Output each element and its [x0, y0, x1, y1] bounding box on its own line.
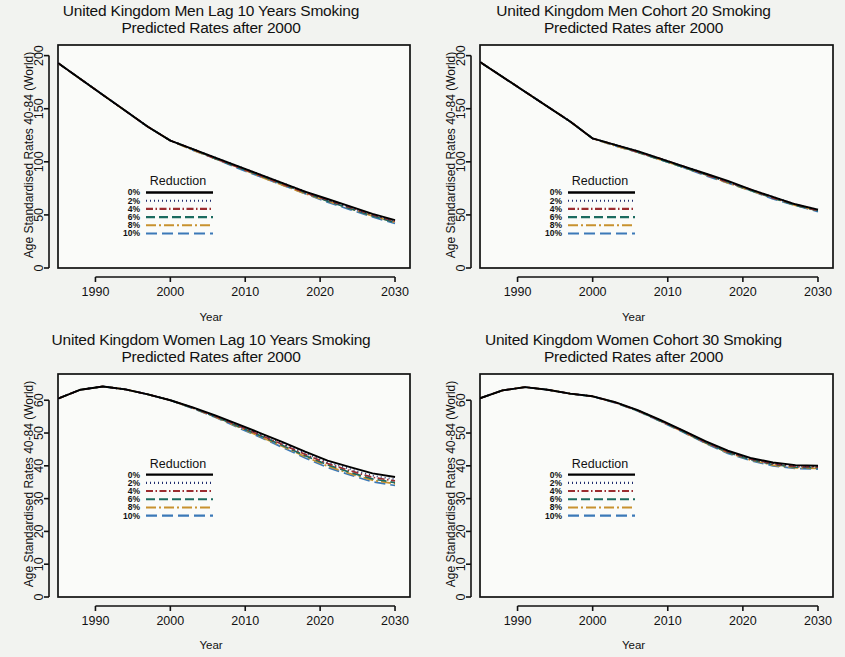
y-tick-label: 50	[32, 426, 46, 440]
y-tick-label: 150	[32, 98, 46, 119]
x-tick-label: 2030	[804, 285, 832, 299]
y-tick-label: 30	[32, 492, 46, 506]
x-tick-label: 2010	[231, 614, 259, 628]
x-tick-label: 2000	[579, 614, 607, 628]
y-tick-label: 10	[454, 557, 468, 571]
x-tick-label: 2000	[156, 285, 184, 299]
y-tick-label: 150	[454, 98, 468, 119]
plot-area-uk-women-cohort30: 010203040506019902000201020202030Reducti…	[422, 329, 845, 657]
legend-title: Reduction	[572, 174, 628, 188]
plot-area-uk-women-lag10: 010203040506019902000201020202030Reducti…	[0, 329, 422, 657]
y-tick-label: 0	[32, 593, 46, 600]
legend-label-10pct: 10%	[545, 511, 562, 521]
x-tick-label: 2020	[729, 285, 757, 299]
plot-area-uk-men-lag10: 05010015020019902000201020202030Reductio…	[0, 0, 422, 329]
x-tick-label: 1990	[82, 614, 110, 628]
legend-label-10pct: 10%	[545, 228, 562, 238]
chart-panel-uk-women-cohort30: United Kingdom Women Cohort 30 Smoking P…	[422, 329, 845, 657]
y-tick-label: 20	[32, 524, 46, 538]
y-tick-label: 60	[454, 393, 468, 407]
x-tick-label: 2010	[654, 285, 682, 299]
x-tick-label: 2020	[729, 614, 757, 628]
plot-background	[58, 374, 410, 597]
y-tick-label: 100	[32, 151, 46, 172]
y-tick-label: 0	[32, 264, 46, 271]
x-tick-label: 2000	[156, 614, 184, 628]
legend-label-10pct: 10%	[123, 511, 140, 521]
y-tick-label: 40	[454, 459, 468, 473]
chart-panel-uk-men-cohort20: United Kingdom Men Cohort 20 Smoking Pre…	[422, 0, 845, 329]
y-tick-label: 0	[454, 593, 468, 600]
y-tick-label: 20	[454, 524, 468, 538]
x-tick-label: 2010	[231, 285, 259, 299]
x-tick-label: 1990	[504, 614, 532, 628]
legend-title: Reduction	[572, 457, 628, 471]
x-tick-label: 2030	[381, 614, 409, 628]
y-tick-label: 50	[454, 426, 468, 440]
figure-panel-grid: United Kingdom Men Lag 10 Years Smoking …	[0, 0, 845, 657]
x-tick-label: 2020	[306, 614, 334, 628]
chart-panel-uk-men-lag10: United Kingdom Men Lag 10 Years Smoking …	[0, 0, 422, 329]
x-tick-label: 2020	[306, 285, 334, 299]
y-tick-label: 0	[454, 264, 468, 271]
y-tick-label: 200	[454, 45, 468, 66]
plot-background	[480, 374, 833, 597]
x-tick-label: 2030	[381, 285, 409, 299]
x-tick-label: 2000	[579, 285, 607, 299]
legend-title: Reduction	[150, 457, 206, 471]
legend-label-10pct: 10%	[123, 228, 140, 238]
chart-panel-uk-women-lag10: United Kingdom Women Lag 10 Years Smokin…	[0, 329, 422, 657]
y-tick-label: 40	[32, 459, 46, 473]
plot-area-uk-men-cohort20: 05010015020019902000201020202030Reductio…	[422, 0, 845, 329]
x-tick-label: 1990	[82, 285, 110, 299]
y-tick-label: 60	[32, 393, 46, 407]
y-tick-label: 200	[32, 45, 46, 66]
x-tick-label: 2010	[654, 614, 682, 628]
y-tick-label: 30	[454, 492, 468, 506]
y-tick-label: 10	[32, 557, 46, 571]
legend-title: Reduction	[150, 174, 206, 188]
plot-background	[58, 45, 410, 268]
x-tick-label: 1990	[504, 285, 532, 299]
y-tick-label: 50	[454, 208, 468, 222]
y-tick-label: 100	[454, 151, 468, 172]
x-tick-label: 2030	[804, 614, 832, 628]
y-tick-label: 50	[32, 208, 46, 222]
